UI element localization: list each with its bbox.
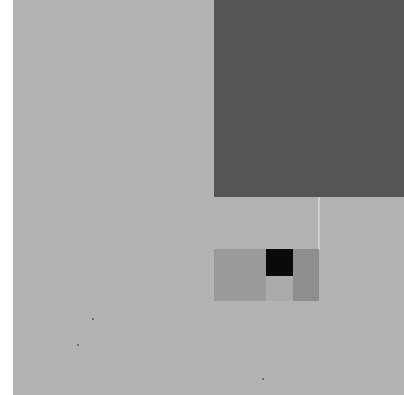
black-square [266, 249, 293, 276]
panel-under-black [266, 276, 293, 301]
panel-left-block [214, 249, 266, 301]
speck [77, 344, 79, 346]
thin-vertical-line [318, 197, 320, 250]
dark-square [214, 0, 404, 197]
speck [92, 318, 94, 320]
panel-right-block [293, 249, 319, 301]
speck [262, 378, 264, 380]
